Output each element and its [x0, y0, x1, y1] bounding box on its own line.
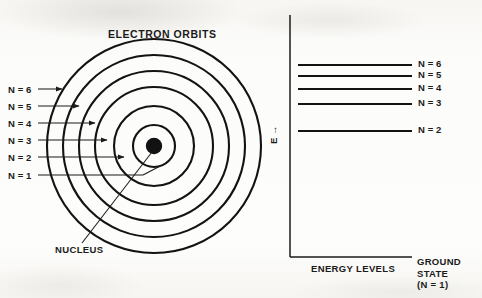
orbit-label-n2: N = 2: [8, 153, 31, 163]
nucleus-dot: [146, 138, 162, 154]
energy-levels-caption: ENERGY LEVELS: [311, 264, 395, 274]
figure-canvas: ELECTRON ORBITS N = 6 N = 5 N = 4 N = 3 …: [0, 0, 482, 298]
nucleus-label: NUCLEUS: [55, 245, 103, 255]
orbit-label-n5: N = 5: [8, 102, 31, 112]
electron-orbits-title: ELECTRON ORBITS: [108, 29, 217, 40]
energy-level-label-n5: N = 5: [418, 70, 441, 80]
energy-axis-label-text: E →: [268, 126, 279, 144]
ground-state-caption: GROUND STATE (N = 1): [417, 256, 461, 291]
orbit-label-n6: N = 6: [8, 85, 31, 95]
energy-level-label-n3: N = 3: [418, 98, 441, 108]
orbit-leader-arrows: [38, 89, 124, 157]
orbit-label-n4: N = 4: [8, 119, 31, 129]
ground-state-line-2: STATE: [417, 268, 461, 280]
ground-state-line-3: (N = 1): [417, 279, 461, 291]
orbit-label-n1: N = 1: [8, 171, 31, 181]
orbit-label-n3: N = 3: [8, 136, 31, 146]
energy-level-lines: [298, 65, 412, 131]
energy-level-label-n2: N = 2: [418, 125, 441, 135]
energy-axis-label: E →: [268, 118, 284, 164]
energy-level-label-n4: N = 4: [418, 83, 441, 93]
energy-level-label-n6: N = 6: [418, 59, 441, 69]
ground-state-line-1: GROUND: [417, 256, 461, 268]
